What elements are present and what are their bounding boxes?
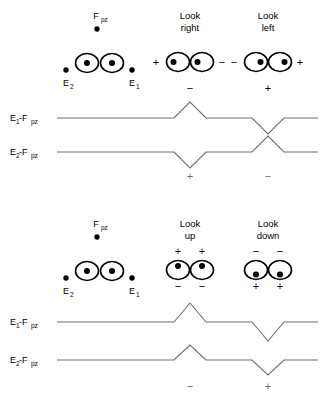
look-left-eye-left-pupil (258, 59, 264, 65)
look-down-polarity-top-left: − (253, 245, 259, 257)
e1-fpz-label-sep: -F (19, 113, 28, 123)
look-up-eye-left-pupil (175, 263, 181, 269)
look-right-polarity-left: + (153, 56, 159, 68)
panel-horizontal: F pz E 2 E 1 Look right + − − + (10, 10, 318, 182)
fpz-label-sub-v: pz (101, 224, 108, 232)
fpz-label-v: F (93, 219, 99, 229)
condition-look-left: Look left − + + − (231, 10, 303, 182)
e2-fpz-label-sep: -F (19, 147, 28, 157)
e2-electrode-dot-v (63, 275, 68, 280)
fpz-electrode-dot (94, 26, 99, 31)
electrode-montage-horizontal: F pz E 2 E 1 (63, 11, 140, 90)
look-left-polarity-right: + (297, 56, 303, 68)
e1-label-sub-v: 1 (136, 291, 140, 298)
e1-electrode-dot-v (129, 275, 134, 280)
e2-fpz-trace-horizontal (57, 136, 318, 168)
look-down-polarity-top-right: − (277, 245, 283, 257)
look-up-title-line2: up (185, 230, 196, 241)
condition-look-down: Look down − − + + + (245, 218, 292, 392)
e1-fpz-trace-vertical (57, 303, 318, 341)
look-right-title-line1: Look (180, 10, 201, 21)
channel-e1-fpz-vertical: E 1 -F pz (10, 303, 318, 341)
e1-fpz-v-label-sep: -F (19, 317, 28, 327)
e1-electrode-dot (129, 67, 134, 72)
e1-label-v: E (129, 286, 135, 296)
look-right-eye-left-pupil (171, 59, 177, 65)
look-up-polarity-bottom-left: − (175, 280, 181, 292)
look-up-bottom-sign: − (187, 380, 193, 392)
look-right-eye-left-outline (167, 53, 190, 72)
panel-vertical: F pz E 2 E 1 Look up + + − − (10, 218, 318, 392)
eog-figure: F pz E 2 E 1 Look right + − − + (0, 0, 324, 407)
channel-e2-fpz-vertical: E 2 -F pz (10, 345, 318, 375)
e2-fpz-trace-vertical (57, 345, 318, 375)
look-right-title-line2: right (181, 22, 200, 33)
look-down-polarity-bottom-left: + (253, 280, 259, 292)
look-right-polarity-right: − (219, 56, 225, 68)
look-down-bottom-sign: + (265, 380, 271, 392)
fpz-electrode-dot-v (94, 234, 99, 239)
e1-fpz-v-label-sub2: pz (31, 322, 38, 330)
channel-e2-fpz-horizontal: E 2 -F pz (10, 136, 318, 168)
eye-left-pupil-v (84, 268, 90, 274)
look-left-bottom-sign: − (265, 170, 271, 182)
look-left-title-line2: left (262, 22, 275, 33)
look-right-top-sign: − (187, 82, 193, 94)
look-down-title-line1: Look (258, 218, 279, 229)
look-down-title-line2: down (257, 230, 280, 241)
channel-e1-fpz-horizontal: E 1 -F pz (10, 102, 318, 134)
e1-fpz-trace-horizontal (57, 102, 318, 134)
e2-electrode-dot (63, 67, 68, 72)
fpz-label: F (93, 11, 99, 21)
figure-canvas: F pz E 2 E 1 Look right + − − + (0, 0, 324, 407)
e2-fpz-v-label-sub2: pz (31, 360, 38, 368)
e2-label-sub: 2 (70, 83, 74, 90)
look-right-eye-right-pupil (195, 59, 201, 65)
e2-label-sub-v: 2 (70, 291, 74, 298)
condition-look-right: Look right + − − + (153, 10, 225, 182)
look-left-eye-left-outline (245, 53, 268, 72)
e2-fpz-label-sub2: pz (31, 152, 38, 160)
look-left-eye-right-outline (269, 53, 292, 72)
look-down-eye-left-pupil (253, 272, 259, 278)
look-right-bottom-sign: + (187, 170, 193, 182)
e1-label-sub: 1 (136, 83, 140, 90)
look-up-polarity-top-right: + (199, 245, 205, 257)
eye-left-pupil (84, 60, 90, 66)
eye-right-pupil (109, 60, 115, 66)
eye-right-pupil-v (109, 268, 115, 274)
e2-fpz-v-label-sep: -F (19, 355, 28, 365)
look-up-eye-right-pupil (199, 263, 205, 269)
fpz-label-sub: pz (101, 16, 108, 24)
e2-label-v: E (63, 286, 69, 296)
look-down-eye-right-pupil (277, 272, 283, 278)
look-left-top-sign: + (265, 82, 271, 94)
look-up-polarity-top-left: + (175, 245, 181, 257)
look-left-title-line1: Look (258, 10, 279, 21)
condition-look-up: Look up + + − − − (167, 218, 214, 392)
look-up-title-line1: Look (180, 218, 201, 229)
look-down-polarity-bottom-right: + (277, 280, 283, 292)
look-left-eye-right-pupil (282, 59, 288, 65)
e1-label: E (129, 78, 135, 88)
e2-label: E (63, 78, 69, 88)
look-up-polarity-bottom-right: − (199, 280, 205, 292)
look-right-eye-right-outline (191, 53, 214, 72)
look-left-polarity-left: − (231, 56, 237, 68)
e1-fpz-label-sub2: pz (31, 118, 38, 126)
electrode-montage-vertical: F pz E 2 E 1 (63, 219, 140, 298)
